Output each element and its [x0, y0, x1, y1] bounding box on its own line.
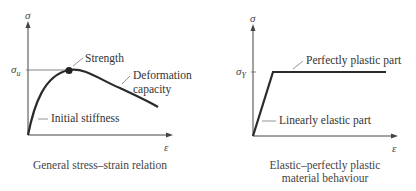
strength-point-icon: [65, 67, 72, 74]
perfectly-plastic-label: Perfectly plastic part: [306, 55, 401, 67]
left-x-arrow-icon: [166, 133, 173, 138]
strength-label: Strength: [85, 53, 124, 65]
right-x-axis-label: ε: [392, 143, 396, 154]
right-caption-line1: Elastic–perfectly plastic: [250, 159, 400, 172]
initial-stiffness-label: Initial stiffness: [51, 113, 119, 125]
linearly-elastic-label: Linearly elastic part: [279, 115, 371, 127]
left-y-axis-label: σ: [25, 10, 30, 21]
sigma-u-label: σu: [11, 64, 20, 78]
right-x-arrow-icon: [391, 134, 398, 139]
plastic-leader: [293, 61, 303, 69]
right-caption-line2: material behaviour: [250, 172, 400, 185]
deformation-label-line2: capacity: [133, 84, 171, 96]
right-y-arrow-icon: [251, 24, 256, 31]
right-y-axis-label: σ: [250, 13, 255, 24]
left-x-axis-label: ε: [164, 142, 168, 153]
right-caption: Elastic–perfectly plastic material behav…: [250, 159, 400, 185]
left-y-arrow-icon: [26, 21, 31, 28]
deformation-leader: [122, 76, 130, 84]
strength-leader: [73, 58, 83, 66]
sigma-y-label: σY: [236, 66, 246, 80]
deformation-label-line1: Deformation: [133, 70, 192, 82]
left-caption: General stress–strain relation: [20, 159, 180, 172]
